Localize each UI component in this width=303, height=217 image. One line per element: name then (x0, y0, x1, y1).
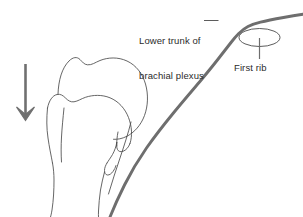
humeral-head-outer-contour-lower (114, 137, 127, 140)
anatomical-figure: Lower trunk of brachial plexus First rib (0, 0, 303, 217)
scapula-edge-line (109, 122, 132, 194)
humeral-shaft-medial-upper (47, 108, 53, 163)
label-lower-trunk-brachial-plexus: Lower trunk of brachial plexus (139, 12, 204, 104)
label-plexus-line-2: brachial plexus (139, 70, 204, 82)
tuberosity-notch-lower (105, 163, 117, 175)
humeral-shaft-lateral-upper (107, 143, 117, 164)
humeral-shaft-medial-inner (61, 108, 64, 162)
humeral-shaft-medial-lower (51, 163, 55, 217)
humeral-shaft-lateral-lower (98, 172, 104, 217)
humeral-head-outer-contour (58, 58, 147, 137)
downward-traction-arrow (17, 64, 35, 121)
bone-outline-group (47, 58, 148, 217)
label-first-rib: First rib (234, 62, 267, 74)
label-plexus-line-1: Lower trunk of (139, 35, 204, 47)
humeral-head-inner-contour (48, 94, 132, 143)
